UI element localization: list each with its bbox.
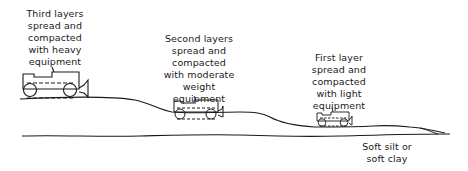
second-layer-label: Second layers spread and compacted with … bbox=[160, 33, 238, 105]
soil-label: Soft silt or soft clay bbox=[352, 141, 422, 165]
soft-soil-base-line bbox=[22, 134, 450, 136]
heavy-equipment-icon bbox=[23, 67, 88, 98]
first-layer-label: First layer spread and compacted with li… bbox=[308, 52, 370, 112]
third-layer-label: Third layers spread and compacted with h… bbox=[22, 8, 88, 68]
